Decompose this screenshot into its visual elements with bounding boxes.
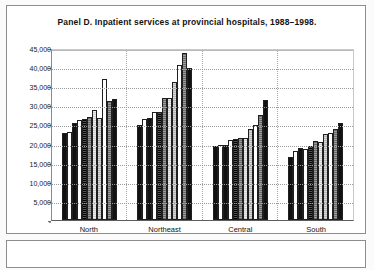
page-title: Panel D. Inpatient services at provincia… [7, 17, 367, 27]
bar-group [52, 50, 127, 220]
y-axis-tick-label: 40,000 [11, 65, 51, 72]
gridline [52, 69, 353, 70]
x-axis-label-south: South [278, 224, 354, 236]
x-axis-label-north: North [51, 224, 127, 236]
y-axis-tick-label: 5,000 [11, 199, 51, 206]
y-axis-tick-label: 30,000 [11, 103, 51, 110]
bar-group [278, 50, 353, 220]
bars [127, 50, 202, 220]
bar-group [127, 50, 202, 220]
bar [187, 68, 192, 220]
bar-groups [52, 50, 353, 220]
x-axis-labels: NorthNortheastCentralSouth [51, 224, 354, 236]
bars [52, 50, 127, 220]
x-axis-label-northeast: Northeast [127, 224, 203, 236]
gridline [52, 126, 353, 127]
gridline [52, 107, 353, 108]
y-axis-tick-label: 25,000 [11, 122, 51, 129]
y-axis-tick-label: - [11, 218, 51, 225]
gridline [52, 50, 353, 51]
x-axis-label-central: Central [203, 224, 279, 236]
y-axis: 45,00040,00035,00030,00025,00020,00015,0… [7, 49, 51, 222]
y-axis-tick-label: 35,000 [11, 84, 51, 91]
bar-group [203, 50, 278, 220]
gridline [52, 184, 353, 185]
y-axis-tick-label: 10,000 [11, 180, 51, 187]
bars [278, 50, 353, 220]
next-panel-container [6, 240, 366, 268]
gridline [52, 146, 353, 147]
bars [203, 50, 278, 220]
gridline [52, 88, 353, 89]
y-axis-tick-label: 45,000 [11, 46, 51, 53]
bar [112, 99, 117, 220]
y-axis-tick-label: 20,000 [11, 142, 51, 149]
panel-d-container: Panel D. Inpatient services at provincia… [6, 5, 366, 234]
screenshot-root: Panel D. Inpatient services at provincia… [0, 0, 374, 270]
gridline [52, 165, 353, 166]
gridline [52, 203, 353, 204]
y-axis-tick-label: 15,000 [11, 161, 51, 168]
bar [338, 123, 343, 220]
plot-area [51, 49, 354, 221]
